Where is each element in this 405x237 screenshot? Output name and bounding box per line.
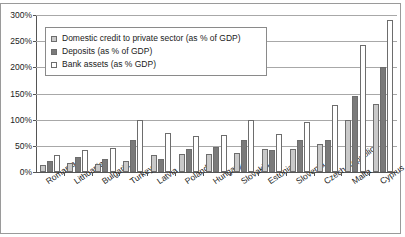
bar-group xyxy=(341,15,369,172)
x-axis-tick-mark xyxy=(258,172,259,176)
bar-credit xyxy=(373,104,379,172)
x-axis-tick-mark xyxy=(286,172,287,176)
bar-credit xyxy=(151,155,157,172)
bar-assets xyxy=(110,148,116,172)
bar-deposits xyxy=(241,140,247,172)
bar-credit xyxy=(290,149,296,172)
bar-assets xyxy=(165,133,171,172)
bar-deposits xyxy=(130,140,136,172)
legend-swatch-assets-icon xyxy=(51,62,57,68)
legend-item: Bank assets (as % GDP) xyxy=(51,58,260,71)
bar-assets xyxy=(193,136,199,172)
bar-group xyxy=(369,15,397,172)
bar-assets xyxy=(221,135,227,172)
bar-credit xyxy=(67,163,73,172)
y-axis-tick-label: 0% xyxy=(0,168,32,176)
y-axis-tick-label: 150% xyxy=(0,90,32,98)
legend-item: Domestic credit to private sector (as % … xyxy=(51,32,260,45)
x-axis-tick-mark xyxy=(314,172,315,176)
bar-credit xyxy=(262,149,268,172)
y-axis-tick-label: 50% xyxy=(0,142,32,150)
bar-credit xyxy=(317,144,323,172)
y-axis-tick-label: 200% xyxy=(0,63,32,71)
bar-assets xyxy=(54,155,60,172)
bar-group xyxy=(314,15,342,172)
bar-deposits xyxy=(186,149,192,172)
bar-assets xyxy=(304,122,310,172)
x-axis-tick-mark xyxy=(230,172,231,176)
chart-legend: Domestic credit to private sector (as % … xyxy=(45,27,267,76)
bar-credit xyxy=(123,161,129,172)
bar-deposits xyxy=(213,147,219,172)
y-axis-tick-label: 300% xyxy=(0,11,32,19)
bar-assets xyxy=(137,120,143,172)
x-axis-tick-mark xyxy=(369,172,370,176)
legend-item: Deposits (as % of GDP) xyxy=(51,45,260,58)
bar-credit xyxy=(234,153,240,172)
legend-label: Domestic credit to private sector (as % … xyxy=(62,34,241,43)
x-axis-tick-mark xyxy=(147,172,148,176)
legend-swatch-deposits-icon xyxy=(51,49,57,55)
bar-assets xyxy=(248,120,254,172)
bar-deposits xyxy=(325,140,331,172)
y-axis-tick-label: 250% xyxy=(0,37,32,45)
bar-deposits xyxy=(352,96,358,172)
bar-credit xyxy=(95,164,101,172)
bar-credit xyxy=(345,120,351,172)
bar-credit xyxy=(179,154,185,172)
bar-assets xyxy=(360,45,366,172)
legend-label: Deposits (as % of GDP) xyxy=(62,47,152,56)
bar-assets xyxy=(332,105,338,172)
bar-deposits xyxy=(102,159,108,172)
x-axis-tick-mark xyxy=(175,172,176,176)
x-axis-tick-mark xyxy=(92,172,93,176)
bar-credit xyxy=(40,165,46,172)
bar-credit xyxy=(206,154,212,172)
legend-swatch-credit-icon xyxy=(51,36,57,42)
bar-assets xyxy=(387,20,393,172)
x-axis-tick-mark xyxy=(119,172,120,176)
bar-assets xyxy=(276,134,282,172)
bar-deposits xyxy=(269,150,275,173)
bar-group xyxy=(286,15,314,172)
bar-deposits xyxy=(380,67,386,172)
y-axis-tick-label: 100% xyxy=(0,116,32,124)
bar-deposits xyxy=(158,159,164,172)
x-axis-tick-mark xyxy=(203,172,204,176)
legend-label: Bank assets (as % GDP) xyxy=(62,60,156,69)
bar-deposits xyxy=(297,140,303,172)
x-axis-tick-mark xyxy=(64,172,65,176)
bar-deposits xyxy=(75,157,81,172)
bar-deposits xyxy=(47,161,53,173)
x-axis-tick-mark xyxy=(341,172,342,176)
bar-assets xyxy=(82,150,88,173)
